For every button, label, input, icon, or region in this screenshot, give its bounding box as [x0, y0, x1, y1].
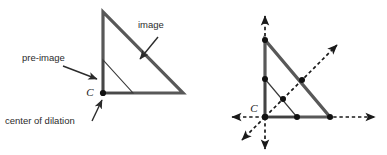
left-panel: C pre-image image center of dilation	[5, 12, 183, 126]
diagram-canvas: C pre-image image center of dilation	[0, 0, 387, 155]
left-image-arrow	[140, 37, 158, 59]
left-center-of-dilation-arrow	[92, 100, 102, 121]
left-preimage-label: pre-image	[22, 52, 65, 63]
left-center-label: C	[86, 86, 94, 98]
dilation-diagram: C pre-image image center of dilation	[0, 0, 387, 155]
left-preimage-arrow	[63, 66, 97, 79]
point-preimage-base-vertex	[294, 114, 300, 120]
ray-down-left-icon	[242, 117, 265, 140]
right-center-label: C	[250, 102, 258, 114]
right-image-triangle	[265, 40, 330, 117]
point-image-hypotenuse	[299, 77, 305, 83]
point-preimage-apex	[262, 76, 268, 82]
point-center	[262, 114, 268, 120]
left-center-of-dilation-label: center of dilation	[5, 115, 75, 126]
point-preimage-hypotenuse	[280, 96, 286, 102]
point-image-base-vertex	[327, 114, 333, 120]
left-image-label: image	[138, 19, 164, 30]
right-panel: C	[232, 16, 375, 149]
left-preimage-triangle	[103, 60, 133, 93]
left-center-point	[100, 90, 106, 96]
point-image-apex	[262, 37, 268, 43]
